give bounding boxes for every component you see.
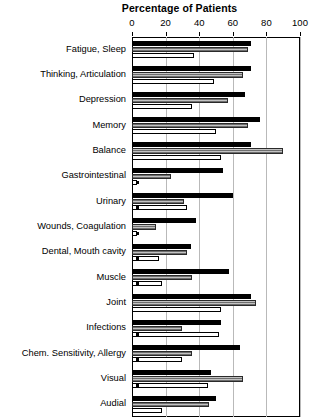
- y-axis-category-label: Dental, Mouth cavity: [0, 247, 126, 256]
- bar-1: [132, 345, 240, 350]
- category-row: Memory: [132, 113, 300, 138]
- bar-1: [132, 269, 229, 274]
- x-tick-mark-20: [166, 32, 167, 36]
- category-row: Visual: [132, 366, 300, 391]
- chart-title: Percentage of Patients: [0, 2, 321, 14]
- bar-3: [132, 104, 192, 109]
- bar-2: [132, 72, 243, 77]
- bar-2: [132, 47, 248, 52]
- y-axis-category-label: Chem. Sensitivity, Allergy: [0, 349, 126, 358]
- y-axis-category-label: Infections: [0, 323, 126, 332]
- bar-2: [132, 148, 283, 153]
- x-tick-mark-40: [199, 32, 200, 36]
- significance-marker-icon: [136, 206, 139, 209]
- y-axis-category-label: Visual: [0, 374, 126, 383]
- bar-2: [132, 300, 256, 305]
- y-axis-category-label: Audial: [0, 399, 126, 408]
- bar-2: [132, 351, 192, 356]
- bar-2: [132, 199, 184, 204]
- bar-1: [132, 41, 251, 46]
- category-row: Gastrointestinal: [132, 164, 300, 189]
- category-row: Thinking, Articulation: [132, 62, 300, 87]
- category-row: Dental, Mouth cavity: [132, 240, 300, 265]
- bar-3: [132, 53, 194, 58]
- significance-marker-icon: [136, 384, 139, 387]
- category-row: Fatigue, Sleep: [132, 37, 300, 62]
- y-axis-category-label: Balance: [0, 146, 126, 155]
- x-tick-mark-60: [233, 32, 234, 36]
- y-axis-category-label: Urinary: [0, 197, 126, 206]
- category-row: Urinary: [132, 189, 300, 214]
- x-tick-mark-100: [300, 32, 301, 36]
- bar-2: [132, 250, 187, 255]
- bar-1: [132, 142, 251, 147]
- bar-1: [132, 92, 245, 97]
- bar-1: [132, 66, 251, 71]
- bar-3: [132, 79, 214, 84]
- y-axis-category-label: Fatigue, Sleep: [0, 45, 126, 54]
- x-tick-label-60: 60: [218, 17, 248, 28]
- bar-1: [132, 218, 196, 223]
- bar-3: [132, 307, 221, 312]
- category-row: Infections: [132, 316, 300, 341]
- category-row: Audial: [132, 392, 300, 417]
- bar-1: [132, 294, 251, 299]
- bar-2: [132, 174, 171, 179]
- x-tick-mark-0: [132, 32, 133, 36]
- bar-3: [132, 129, 216, 134]
- bar-1: [132, 244, 191, 249]
- x-tick-label-100: 100: [285, 17, 315, 28]
- x-tick-label-20: 20: [151, 17, 181, 28]
- x-tick-label-80: 80: [251, 17, 281, 28]
- bar-1: [132, 117, 260, 122]
- category-row: Chem. Sensitivity, Allergy: [132, 341, 300, 366]
- bar-1: [132, 370, 211, 375]
- significance-marker-icon: [136, 257, 139, 260]
- bar-2: [132, 224, 156, 229]
- x-tick-label-40: 40: [184, 17, 214, 28]
- x-tick-mark-80: [266, 32, 267, 36]
- category-row: Wounds, Coagulation: [132, 214, 300, 239]
- y-axis-category-label: Gastrointestinal: [0, 171, 126, 180]
- bar-2: [132, 98, 228, 103]
- significance-marker-icon: [136, 232, 139, 235]
- bar-3: [132, 383, 208, 388]
- significance-marker-icon: [136, 333, 139, 336]
- y-axis-category-label: Joint: [0, 298, 126, 307]
- bar-3: [132, 205, 187, 210]
- bar-3: [132, 408, 162, 413]
- y-axis-category-label: Depression: [0, 95, 126, 104]
- category-row: Balance: [132, 138, 300, 163]
- bar-1: [132, 396, 216, 401]
- category-row: Muscle: [132, 265, 300, 290]
- y-axis-category-label: Memory: [0, 121, 126, 130]
- plot-area: 020406080100 Fatigue, SleepThinking, Art…: [132, 37, 300, 417]
- bar-2: [132, 376, 243, 381]
- bar-2: [132, 123, 248, 128]
- x-tick-label-0: 0: [117, 17, 147, 28]
- bar-chart: Percentage of Patients 020406080100 Fati…: [0, 0, 321, 420]
- bar-1: [132, 320, 221, 325]
- bar-2: [132, 275, 192, 280]
- gridline-100: [300, 37, 301, 417]
- bar-2: [132, 402, 209, 407]
- y-axis-category-label: Thinking, Articulation: [0, 70, 126, 79]
- significance-marker-icon: [136, 358, 139, 361]
- bar-1: [132, 193, 233, 198]
- y-axis-category-label: Wounds, Coagulation: [0, 222, 126, 231]
- category-row: Joint: [132, 290, 300, 315]
- significance-marker-icon: [136, 282, 139, 285]
- bar-1: [132, 168, 223, 173]
- significance-marker-icon: [136, 181, 139, 184]
- bar-3: [132, 332, 219, 337]
- bar-2: [132, 326, 182, 331]
- category-row: Depression: [132, 88, 300, 113]
- y-axis-category-label: Muscle: [0, 273, 126, 282]
- bar-3: [132, 155, 221, 160]
- bar-3: [132, 357, 182, 362]
